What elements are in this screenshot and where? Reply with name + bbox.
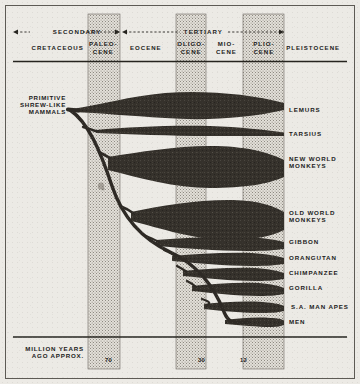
- lineage-label-gorilla: GORILLA: [289, 284, 323, 291]
- epoch-label-pleistocene: PLEISTOCENE: [286, 44, 340, 51]
- lineage-label-new-world-monkeys: NEW WORLD MONKEYS: [289, 155, 337, 169]
- lineage-label-new-world-line1: NEW WORLD: [289, 155, 337, 162]
- epoch-label-paleocene-line1: PALEO-: [89, 40, 118, 48]
- lineage-label-old-world-line1: OLD WORLD: [289, 209, 335, 216]
- root-label-line3: MAMMALS: [0, 108, 66, 115]
- lineage-label-tarsius: TARSIUS: [289, 130, 322, 137]
- root-label: PRIMITIVE SHREW-LIKE MAMMALS: [0, 94, 66, 115]
- epoch-columns: [88, 14, 284, 369]
- column-pliocene: [243, 14, 284, 369]
- epoch-label-paleocene: PALEO- CENE: [89, 40, 118, 55]
- lineage-label-men: MEN: [289, 318, 305, 325]
- axis-caption: MILLION YEARS AGO APPROX.: [14, 345, 84, 359]
- epoch-label-oligocene: OLIGO- CENE: [177, 40, 205, 55]
- tick-label-70: 70: [105, 357, 112, 364]
- epoch-label-miocene: MIO- CENE: [216, 40, 237, 55]
- tick-label-30: 30: [198, 357, 205, 364]
- epoch-label-pliocene: PLIO- CENE: [253, 40, 274, 55]
- lineage-label-sa-man-apes: S.A. MAN APES: [291, 303, 349, 310]
- era-label-tertiary: TERTIARY: [184, 28, 223, 35]
- root-label-line1: PRIMITIVE: [0, 94, 66, 101]
- root-label-line2: SHREW-LIKE: [0, 101, 66, 108]
- lineage-label-gibbon: GIBBON: [289, 238, 319, 245]
- era-label-secondary: SECONDARY: [53, 28, 102, 35]
- chart-graphics: [0, 0, 360, 384]
- axis-caption-line1: MILLION YEARS: [14, 345, 84, 352]
- lineage-label-old-world-line2: MONKEYS: [289, 216, 335, 223]
- lineage-label-lemurs: LEMURS: [289, 106, 321, 113]
- epoch-label-miocene-line2: CENE: [216, 48, 237, 56]
- epoch-label-miocene-line1: MIO-: [216, 40, 237, 48]
- column-oligocene: [176, 14, 206, 369]
- lineage-label-chimpanzee: CHIMPANZEE: [289, 269, 338, 276]
- root-tip: [68, 110, 78, 111]
- epoch-label-eocene: EOCENE: [130, 44, 162, 51]
- epoch-label-oligocene-line1: OLIGO-: [177, 40, 205, 48]
- primate-evolution-chart: SECONDARY TERTIARY CRETACEOUS PALEO- CEN…: [0, 0, 360, 384]
- axis-caption-line2: AGO APPROX.: [14, 352, 84, 359]
- lineage-label-orangutan: ORANGUTAN: [289, 254, 337, 261]
- tick-label-12: 12: [240, 357, 247, 364]
- lineage-label-old-world-monkeys: OLD WORLD MONKEYS: [289, 209, 335, 223]
- lineage-label-new-world-line2: MONKEYS: [289, 162, 337, 169]
- epoch-label-cretaceous: CRETACEOUS: [31, 44, 83, 51]
- epoch-label-oligocene-line2: CENE: [177, 48, 205, 56]
- epoch-label-pliocene-line2: CENE: [253, 48, 274, 56]
- epoch-label-pliocene-line1: PLIO-: [253, 40, 274, 48]
- epoch-label-paleocene-line2: CENE: [89, 48, 118, 56]
